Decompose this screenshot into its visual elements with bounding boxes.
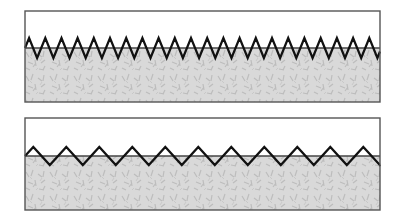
diagram-canvas bbox=[0, 0, 403, 224]
panel-low-frequency bbox=[25, 118, 380, 210]
lower-speckled-region bbox=[25, 48, 380, 102]
panel-high-frequency bbox=[25, 11, 380, 102]
lower-speckled-region bbox=[25, 156, 380, 210]
